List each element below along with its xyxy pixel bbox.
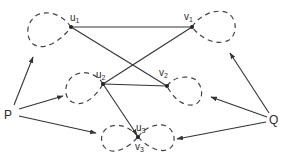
label-Q: Q [269,113,278,127]
labels: u1 v1 u2 v2 u3 v3 P Q [4,11,278,153]
arrow-Q-v1 [230,53,269,113]
label-u3: u3 [136,122,146,134]
vertex-u2 [101,82,105,86]
edges [71,27,192,135]
arrow-Q-v3 [177,122,266,139]
vertex-dots [69,25,194,139]
label-v1: v1 [184,11,193,23]
label-u1: u1 [70,12,80,24]
arrow-P-u1 [14,57,33,105]
label-u2: u2 [96,69,106,81]
graph-diagram: u1 v1 u2 v2 u3 v3 P Q [0,0,284,163]
edge-u2-u3 [103,84,137,135]
loop-u1 [28,13,71,47]
arrow-P-u3 [19,116,96,133]
vertex-u3v3 [136,135,140,139]
loop-v2 [167,77,202,105]
loop-v1 [192,11,235,42]
arrow-Q-v2 [211,97,267,117]
edge-u2-v2 [103,84,167,86]
loops [28,11,235,151]
edge-u1-v2 [71,27,167,86]
vertex-v2 [165,84,169,88]
vertex-u1 [69,25,73,29]
label-v3: v3 [135,141,144,153]
vertex-v1 [190,25,194,29]
label-v2: v2 [159,67,168,79]
label-P: P [4,108,12,122]
arrow-P-u2 [19,96,63,109]
